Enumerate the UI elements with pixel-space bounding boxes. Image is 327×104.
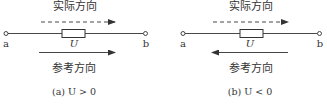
terminal-b-label: b: [317, 38, 323, 49]
voltage-label: U: [246, 38, 254, 49]
reference-direction-label: 参考方向: [229, 63, 273, 75]
resistor: [62, 30, 85, 38]
actual-direction-label: 实际方向: [229, 1, 273, 13]
terminal-a-label: a: [3, 38, 9, 49]
terminal-b-label: b: [143, 38, 149, 49]
terminal-b: [144, 32, 148, 36]
resistor: [240, 30, 263, 38]
caption-a: (a) U > 0: [52, 86, 96, 97]
actual-direction-label: 实际方向: [53, 1, 97, 13]
voltage-label: U: [70, 38, 78, 49]
caption-b: (b) U < 0: [228, 86, 273, 97]
reference-direction-label: 参考方向: [52, 63, 96, 75]
terminal-b: [318, 32, 322, 36]
terminal-a-label: a: [180, 38, 186, 49]
terminal-a: [4, 32, 8, 36]
circuit-diagrams: [0, 0, 327, 104]
terminal-a: [181, 32, 185, 36]
